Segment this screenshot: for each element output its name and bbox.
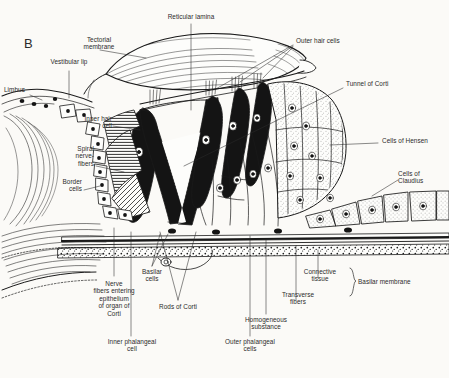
figure-organ-of-corti: B Reticular lamina Tectorial membrane Ve… [0, 0, 449, 378]
label-border-cells: Border cells [40, 178, 82, 193]
label-outer-phalangeal-cells: Outer phalangeal cells [215, 338, 285, 353]
label-connective-tissue: Connective tissue [295, 268, 345, 283]
outer-hair-cells-structure [192, 82, 272, 208]
label-cells-of-claudius: Cells of Claudius [398, 170, 446, 185]
label-basilar-cells: Basilar cells [128, 268, 176, 283]
label-tectorial-membrane: Tectorial membrane [62, 36, 136, 51]
label-cells-of-hensen: Cells of Hensen [382, 137, 448, 144]
label-basilar-membrane: Basilar membrane [358, 278, 434, 285]
basilar-membrane-bracket [350, 268, 356, 296]
cells-of-hensen-structure [268, 82, 346, 218]
label-limbus: Limbus [4, 86, 38, 93]
basilar-membrane-structure [58, 227, 449, 269]
label-tunnel-of-corti: Tunnel of Corti [346, 80, 408, 87]
label-nerve-fibers-entering: Nerve fibers entering epithelium of orga… [74, 280, 154, 317]
label-rods-of-corti: Rods of Corti [146, 303, 210, 310]
label-outer-hair-cells: Outer hair cells [296, 37, 366, 44]
label-spiral-nerve-fibers: Spiral nerve- fibers [52, 145, 94, 167]
label-inner-phalangeal-cell: Inner phalangeal cell [97, 338, 167, 353]
panel-letter: B [24, 36, 33, 51]
label-vestibular-lip: Vestibular lip [40, 58, 98, 65]
label-inner-hair-cell: Inner hair cell [56, 115, 112, 130]
label-homogeneous-substance: Homogeneous substance [232, 316, 300, 331]
label-transverse-fibers: Transverse fibers [272, 291, 324, 306]
label-reticular-lamina: Reticular lamina [161, 13, 221, 20]
